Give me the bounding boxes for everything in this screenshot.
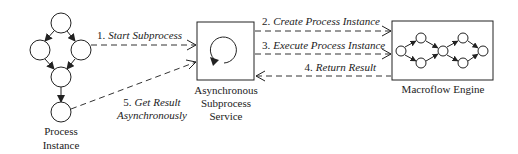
process-node-start: [51, 13, 71, 33]
macro-node: [478, 46, 488, 56]
process-node-end: [51, 102, 71, 122]
async-service-label-line3: Service: [210, 110, 243, 122]
async-service-label-line1: Asynchronous: [194, 84, 258, 96]
graph-edge: [45, 59, 54, 69]
macroflow-engine-label: Macroflow Engine: [402, 83, 485, 95]
process-node-join: [51, 67, 71, 87]
process-node-right: [71, 40, 91, 60]
graph-edge: [45, 31, 54, 41]
edge-1-label: 1.Start Subprocess: [97, 29, 182, 41]
macro-node: [416, 33, 426, 43]
macro-node: [396, 46, 406, 56]
async-service-label-line2: Subprocess: [201, 97, 251, 109]
graph-edge: [67, 31, 75, 41]
diagram-canvas: Process Instance Asynchronous Subprocess…: [0, 0, 518, 154]
process-node-left: [30, 40, 50, 60]
edge-2-label: 2.Create Process Instance: [262, 15, 380, 27]
edge-5-label-line1: 5.Get Result: [123, 96, 181, 108]
edge-3-label: 3.Execute Process Instance: [262, 39, 385, 51]
edge-start-subprocess: [91, 40, 196, 50]
graph-edge: [67, 59, 75, 69]
process-instance-label-line2: Instance: [43, 139, 80, 151]
macro-node: [458, 33, 468, 43]
process-instance-label-line1: Process: [44, 125, 78, 137]
edge-5-label-line2: Asynchronously: [116, 109, 187, 121]
macro-node: [438, 46, 448, 56]
process-instance-graph: [30, 13, 91, 122]
macro-node: [458, 58, 468, 68]
macro-node: [416, 58, 426, 68]
edge-4-label: 4.Return Result: [305, 61, 377, 73]
edge-create-process-instance: [255, 26, 391, 36]
async-subprocess-service-box: [197, 22, 254, 80]
